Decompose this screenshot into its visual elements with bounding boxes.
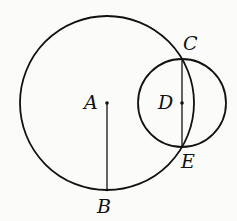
point-a-dot — [105, 101, 109, 105]
point-d-dot — [180, 101, 184, 105]
point-b-dot — [106, 189, 109, 192]
label-d: D — [158, 93, 173, 112]
label-c: C — [183, 34, 198, 53]
label-e: E — [181, 152, 195, 171]
geometry-diagram — [0, 0, 237, 221]
label-b: B — [97, 197, 111, 216]
label-a: A — [84, 93, 98, 112]
